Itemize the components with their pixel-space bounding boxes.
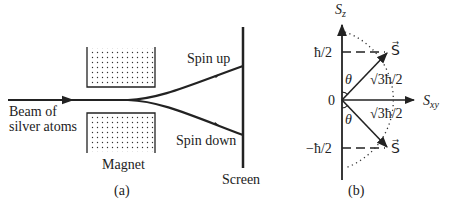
tick-neg-hbar-half: −ħ/2 xyxy=(306,141,332,156)
screen-label: Screen xyxy=(222,172,260,187)
magnet-label: Magnet xyxy=(102,157,145,172)
magnitude-label-up: √3ħ/2 xyxy=(370,72,403,87)
caption-a: (a) xyxy=(114,183,130,198)
theta-label-down: θ xyxy=(345,112,352,127)
beam-label-line2: silver atoms xyxy=(9,119,77,134)
vector-s-up-label: S⃗ xyxy=(391,43,400,58)
magnet-bottom-pole xyxy=(87,113,155,153)
caption-b: (b) xyxy=(348,183,364,198)
sz-axis-label: Sz xyxy=(335,2,346,18)
spin-up-label: Spin up xyxy=(187,51,230,66)
vector-s-down-label: S⃗ xyxy=(391,141,400,156)
sxy-axis-label: Sxy xyxy=(423,93,439,109)
magnet-top-pole xyxy=(87,47,155,87)
spin-down-label: Spin down xyxy=(176,133,236,148)
tick-hbar-half: ħ/2 xyxy=(314,45,332,60)
tick-zero: 0 xyxy=(328,93,335,108)
spin-vector-diagram xyxy=(342,25,414,180)
magnitude-label-down: √3ħ/2 xyxy=(370,106,403,121)
beam-label-line1: Beam of xyxy=(9,104,57,119)
theta-label-up: θ xyxy=(345,72,352,87)
